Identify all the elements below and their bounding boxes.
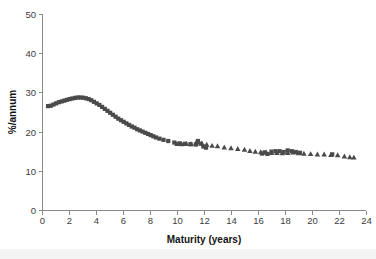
x-tick-label: 12 [199,215,210,226]
x-tick-label: 16 [253,215,264,226]
yield-curve-chart: 01020304050 024681012141618202224 Maturi… [0,0,376,259]
chart-figure: 01020304050 024681012141618202224 Maturi… [0,0,376,259]
x-tick-label: 2 [67,215,72,226]
x-tick-label: 10 [172,215,183,226]
x-tick-label: 24 [361,215,372,226]
chart-background [0,0,376,259]
y-tick-label: 30 [25,87,36,98]
y-tick-label: 0 [31,205,36,216]
y-tick-label: 40 [25,48,36,59]
x-axis-title: Maturity (years) [167,234,241,245]
x-tick-label: 18 [280,215,291,226]
x-tick-label: 6 [121,215,126,226]
x-tick-label: 8 [148,215,153,226]
y-tick-label: 20 [25,127,36,138]
y-tick-label: 50 [25,9,36,20]
data-point-square [157,137,161,141]
y-tick-label: 10 [25,166,36,177]
x-tick-label: 20 [307,215,318,226]
x-tick-label: 14 [226,215,237,226]
x-tick-label: 22 [334,215,345,226]
x-tick-label: 0 [40,215,45,226]
data-point-square [161,138,165,142]
y-axis-title: %/annum [7,90,18,135]
data-point-square [166,139,170,143]
x-tick-label: 4 [94,215,99,226]
page-edge-band [0,249,376,259]
